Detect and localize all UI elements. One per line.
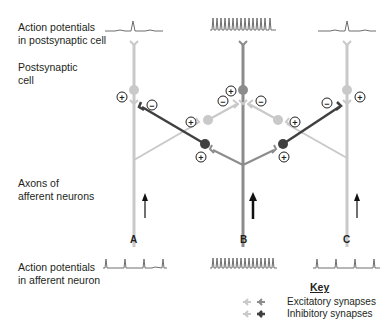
column-label-b: B [240,234,247,245]
label-ap-afferent: Action potentials in afferent neuron [18,261,100,286]
key-inhibitory-label: Inhibitory synapses [287,308,373,319]
svg-text:+: + [188,118,193,128]
postsynaptic-trace-c [318,21,376,31]
afferent-trace-b [210,258,277,268]
label-ap-postsynaptic: Action potentials in postsynaptic cell [18,21,106,46]
arrow-c-icon [354,193,360,218]
interneuron-dark-right [278,102,341,149]
neuron-a [129,41,199,247]
svg-text:+: + [281,153,286,163]
svg-text:−: − [149,101,154,111]
key-inhibitory-icons [243,311,265,317]
postsynaptic-trace-b [210,18,276,30]
afferent-trace-c [313,259,380,268]
svg-text:−: − [220,97,225,107]
plus-icon: + [279,152,289,163]
afferent-trace-a [103,259,167,268]
plus-icon: + [290,117,300,128]
arrow-b-icon [249,192,257,219]
arrow-a-icon [142,193,148,218]
plus-icon: + [355,92,365,103]
svg-text:+: + [119,93,124,103]
svg-text:+: + [292,118,297,128]
neuron-c [286,41,352,247]
minus-icon: − [147,100,157,111]
minus-icon: − [218,96,228,107]
neuron-b [210,41,276,247]
column-label-c: C [343,234,350,245]
svg-text:+: + [357,93,362,103]
label-postsynaptic-cell: Postsynaptic cell [18,61,78,86]
svg-text:−: − [258,97,263,107]
svg-text:+: + [228,87,233,97]
key-excitatory-label: Excitatory synapses [287,296,376,307]
plus-icon: + [186,117,196,128]
label-axons: Axons of afferent neurons [18,177,94,202]
postsynaptic-trace-a [105,21,163,31]
svg-text:+: + [198,153,203,163]
key-excitatory-icons [243,299,265,305]
plus-icon: + [226,86,236,97]
plus-icon: + [117,92,127,103]
svg-text:−: − [324,99,329,109]
plus-icon: + [196,152,206,163]
sign-markers: + − + + + − − + + − + [117,86,365,163]
minus-icon: − [256,96,266,107]
minus-icon: − [322,98,332,109]
key-title: Key [310,281,329,293]
column-label-a: A [130,234,137,245]
